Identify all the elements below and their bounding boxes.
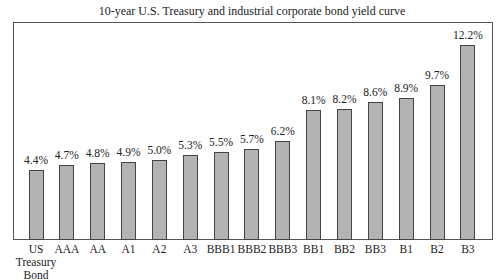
bar-bb2 <box>337 109 352 240</box>
bar-bb3 <box>368 102 383 240</box>
bar-us-treasury-bond <box>29 170 44 240</box>
bar-a2 <box>152 160 167 240</box>
category-label: B3 <box>446 243 490 256</box>
bar-bb1 <box>306 110 321 240</box>
value-label: 6.2% <box>263 125 303 137</box>
bar-a3 <box>183 155 198 240</box>
bar-b1 <box>399 98 414 240</box>
bar-bbb1 <box>214 152 229 240</box>
value-label: 9.7% <box>417 69 457 81</box>
bar-b2 <box>430 85 445 240</box>
value-label: 8.9% <box>386 82 426 94</box>
bar-bbb2 <box>244 149 259 240</box>
chart-title: 10-year U.S. Treasury and industrial cor… <box>0 4 504 19</box>
bar-aa <box>90 163 105 240</box>
bar-aaa <box>59 165 74 240</box>
bar-bbb3 <box>275 141 290 240</box>
bar-b3 <box>460 45 475 240</box>
bar-a1 <box>121 162 136 240</box>
value-label: 12.2% <box>448 29 488 41</box>
